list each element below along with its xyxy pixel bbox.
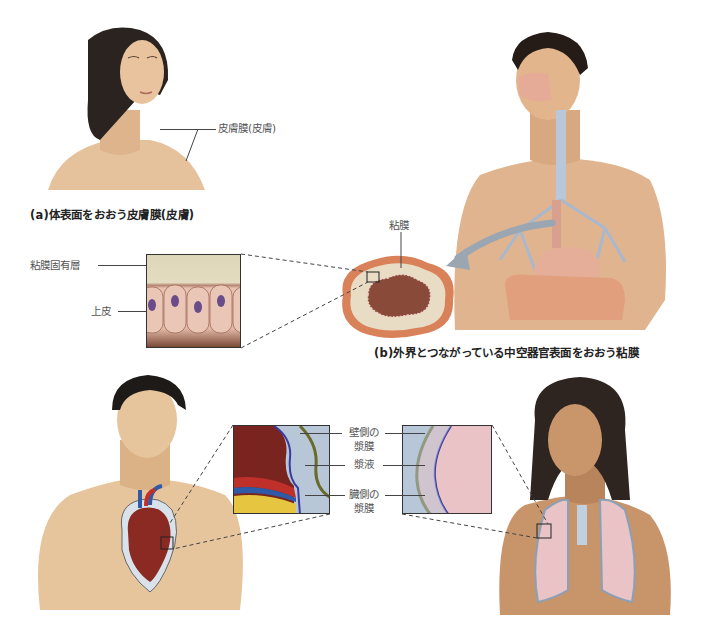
leader-line-visceral-left [305,495,345,496]
leader-line-fluid-right [383,465,425,466]
label-parietal-line1: 壁側の [344,425,384,439]
label-serous-fluid: 漿液 [344,457,384,471]
zoom-dashed-lines-serous [0,0,706,638]
label-visceral-serosa: 臓側の 漿膜 [344,487,384,515]
label-visceral-line2: 漿膜 [344,501,384,515]
label-parietal-serosa: 壁側の 漿膜 [344,425,384,453]
leader-line-parietal-left [300,433,342,434]
leader-line-visceral-right [385,495,425,496]
leader-line-fluid-left [305,465,345,466]
label-parietal-line2: 漿膜 [344,439,384,453]
leader-line-parietal-right [385,433,425,434]
label-visceral-line1: 臓側の [344,487,384,501]
